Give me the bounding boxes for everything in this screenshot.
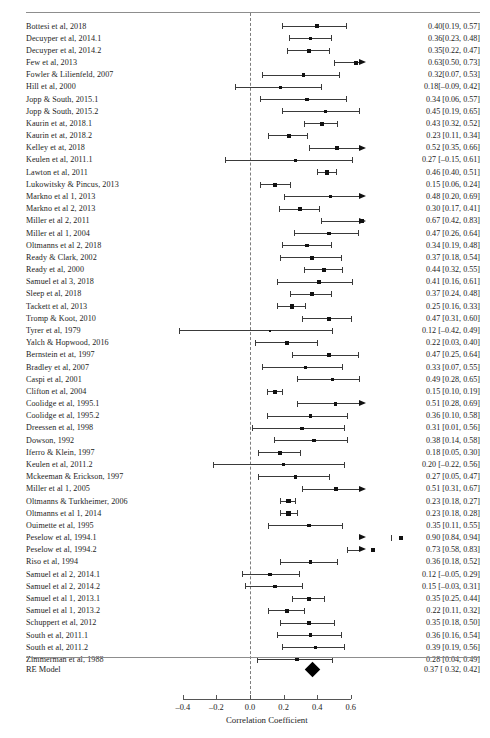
ci-cap-low — [262, 364, 263, 370]
ci-cap-high — [344, 462, 345, 468]
study-label: Oltmanns & Turkheimer, 2006 — [26, 497, 128, 506]
effect-point — [325, 170, 329, 174]
ci-line — [302, 489, 360, 490]
ci-cap-low — [255, 340, 256, 346]
study-label: Dowson, 1992 — [26, 436, 74, 445]
estimate-label: 0.37 [0.18, 0.54] — [426, 253, 480, 262]
effect-point — [327, 232, 331, 236]
ci-cap-low — [277, 303, 278, 309]
estimate-label: 0.22 [0.03, 0.40] — [426, 338, 480, 347]
summary-estimate-label: 0.37 [ 0.32, 0.42] — [424, 665, 480, 674]
forest-plot: Bottesi et al, 20180.40[0.19, 0.57]Decuy… — [0, 0, 490, 738]
ci-cap-high — [337, 121, 338, 127]
study-label: Miller et al 1, 2005 — [26, 484, 90, 493]
ci-cap-low — [391, 535, 392, 541]
ci-cap-low — [267, 389, 268, 395]
effect-point — [269, 330, 271, 332]
ci-cap-high — [336, 169, 337, 175]
ci-cap-high — [342, 364, 343, 370]
x-axis-line — [183, 699, 351, 700]
zero-reference-line — [250, 13, 251, 699]
study-label: Samuel et al 3, 2018 — [26, 277, 94, 286]
header-rule — [26, 12, 480, 13]
effect-point — [309, 633, 313, 637]
ci-cap-high — [344, 644, 345, 650]
ci-line — [225, 160, 353, 161]
x-axis-tick — [351, 695, 352, 699]
study-label: Sleep et al, 2018 — [26, 289, 81, 298]
estimate-label: 0.27 [–0.15, 0.61] — [422, 155, 480, 164]
estimate-label: 0.46 [0.40, 0.51] — [426, 168, 480, 177]
study-label: Mckeeman & Erickson, 1997 — [26, 472, 123, 481]
ci-cap-high — [344, 425, 345, 431]
ci-cap-high — [302, 583, 303, 589]
effect-point — [310, 256, 314, 260]
ci-cap-high — [347, 413, 348, 419]
ci-cap-high — [342, 523, 343, 529]
ci-cap-high — [299, 571, 300, 577]
ci-arrow-right — [359, 145, 366, 151]
study-label: Oltmanns et al 2, 2018 — [26, 241, 101, 250]
ci-cap-high — [329, 48, 330, 54]
ci-cap-high — [300, 450, 301, 456]
ci-cap-high — [332, 328, 333, 334]
effect-point — [298, 207, 302, 211]
ci-cap-low — [280, 510, 281, 516]
estimate-label: 0.67 [0.42, 0.83] — [426, 216, 480, 225]
effect-point — [307, 597, 311, 601]
ci-line — [277, 282, 353, 283]
study-label: Keulen et al, 2011.2 — [26, 460, 93, 469]
ci-cap-low — [274, 437, 275, 443]
study-label: Caspi et al, 2001 — [26, 375, 82, 384]
estimate-label: 0.34 [0.06, 0.57] — [426, 95, 480, 104]
effect-point — [309, 414, 312, 417]
ci-cap-high — [352, 279, 353, 285]
study-label: Markno et al 2, 2013 — [26, 204, 95, 213]
ci-cap-low — [304, 121, 305, 127]
ci-cap-low — [292, 596, 293, 602]
x-axis-tick-label: 0.6 — [331, 703, 371, 712]
effect-point — [273, 390, 277, 394]
estimate-label: 0.90 [0.84, 0.94] — [426, 533, 480, 542]
ci-line — [297, 379, 359, 380]
effect-point — [317, 280, 320, 283]
estimate-label: 0.51 [0.31, 0.67] — [426, 484, 480, 493]
ci-cap-low — [277, 279, 278, 285]
ci-cap-low — [225, 157, 226, 163]
ci-cap-low — [213, 462, 214, 468]
ci-cap-low — [321, 218, 322, 224]
effect-point — [307, 621, 311, 625]
estimate-label: 0.51 [0.28, 0.69] — [426, 399, 480, 408]
ci-line — [309, 148, 360, 149]
summary-diamond — [304, 661, 320, 677]
ci-cap-low — [252, 425, 253, 431]
effect-point — [287, 134, 291, 138]
ci-arrow-right — [359, 193, 366, 199]
effect-point — [335, 146, 339, 150]
study-label: Few et al, 2013 — [26, 58, 77, 67]
study-label: Bradley et al, 2007 — [26, 363, 89, 372]
ci-cap-low — [260, 182, 261, 188]
effect-point — [294, 159, 297, 162]
effect-point — [305, 98, 308, 101]
estimate-label: 0.47 [0.26, 0.64] — [426, 229, 480, 238]
effect-point — [327, 353, 331, 357]
ci-cap-low — [292, 352, 293, 358]
ci-cap-low — [179, 328, 180, 334]
study-label: Schuppert et al, 2012 — [26, 618, 96, 627]
study-label: Tromp & Koot, 2010 — [26, 314, 96, 323]
effect-point — [282, 463, 285, 466]
study-label: Ouimette et al, 1995 — [26, 521, 94, 530]
ci-line — [282, 111, 359, 112]
estimate-label: 0.47 [0.31, 0.60] — [426, 314, 480, 323]
ci-cap-high — [329, 474, 330, 480]
effect-point — [320, 122, 324, 126]
ci-cap-high — [359, 376, 360, 382]
ci-cap-low — [282, 108, 283, 114]
ci-cap-low — [280, 255, 281, 261]
ci-cap-low — [290, 291, 291, 297]
ci-line — [260, 99, 346, 100]
effect-point — [322, 268, 326, 272]
effect-point — [286, 511, 290, 515]
ci-cap-low — [317, 169, 318, 175]
